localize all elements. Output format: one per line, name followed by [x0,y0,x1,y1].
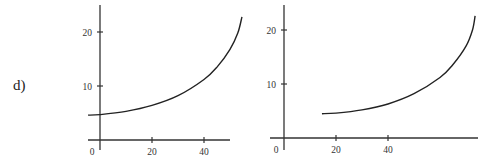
x-tick-label: 20 [331,145,341,155]
figure: 020401020 020401020 [0,0,492,163]
chart-right: 020401020 [267,5,479,155]
x-tick-label: 0 [90,147,95,157]
x-tick-label: 20 [147,147,157,157]
y-tick-label: 20 [83,28,93,38]
x-tick-label: 40 [383,145,393,155]
x-tick-label: 0 [274,145,279,155]
curve-line [88,17,242,115]
x-tick-label: 40 [199,147,209,157]
y-tick-label: 10 [267,80,277,90]
y-tick-label: 10 [83,82,93,92]
chart-left: 020401020 [83,5,242,157]
curve-line [322,16,475,114]
y-tick-label: 20 [267,26,277,36]
